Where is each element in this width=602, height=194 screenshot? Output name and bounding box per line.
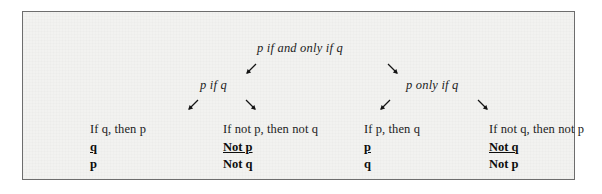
tree-leaf-group: If not p, then not q Not p Not q: [223, 122, 318, 173]
tree-node-p-only-if-q: p only if q: [406, 78, 459, 92]
arrow-down-left-icon: [243, 62, 259, 78]
leaf-conclusion: Not q: [223, 156, 318, 173]
leaf-premise: p: [364, 139, 371, 156]
tree-leaf-group: If q, then p q p: [90, 122, 146, 173]
leaf-premise: Not q: [489, 139, 519, 156]
page-canvas: p if and only if q p if q p only if q: [0, 0, 602, 194]
leaf-premise: q: [90, 139, 97, 156]
leaf-conditional-title: If not q, then not p: [489, 122, 584, 137]
arrow-down-right-icon: [475, 98, 491, 114]
tree-node-root: p if and only if q: [257, 41, 343, 55]
leaf-premise-row: q: [90, 137, 146, 156]
leaf-conclusion: q: [364, 156, 420, 173]
leaf-premise-row: Not p: [223, 137, 318, 156]
leaf-conclusion: p: [90, 156, 146, 173]
leaf-conditional-title: If q, then p: [90, 122, 146, 137]
figure-panel: p if and only if q p if q p only if q: [22, 11, 575, 180]
leaf-conclusion: Not p: [489, 156, 584, 173]
leaf-conditional-title: If not p, then not q: [223, 122, 318, 137]
leaf-premise-row: p: [364, 137, 420, 156]
arrow-down-left-icon: [377, 98, 393, 114]
tree-leaf-group: If not q, then not p Not q Not p: [489, 122, 584, 173]
arrow-down-left-icon: [185, 98, 201, 114]
leaf-conditional-title: If p, then q: [364, 122, 420, 137]
leaf-premise-row: Not q: [489, 137, 584, 156]
tree-node-p-if-q: p if q: [200, 78, 227, 92]
tree-leaf-group: If p, then q p q: [364, 122, 420, 173]
leaf-premise: Not p: [223, 139, 253, 156]
arrow-down-right-icon: [243, 98, 259, 114]
arrow-down-right-icon: [385, 62, 401, 78]
